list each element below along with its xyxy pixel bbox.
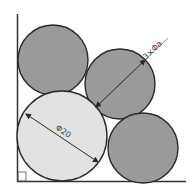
- small-circle-label: 3×Φa: [141, 39, 164, 62]
- small-circle-bottom-right: [108, 113, 178, 183]
- right-angle-marker: [18, 172, 26, 181]
- packing-diagram: 3×Φa Φ20: [0, 0, 195, 194]
- small-circle-top-left: [18, 25, 88, 95]
